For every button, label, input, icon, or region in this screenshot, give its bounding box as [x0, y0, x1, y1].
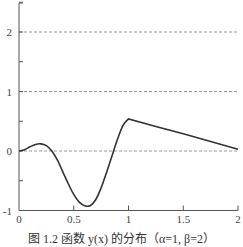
y-tick-label: 1 — [7, 86, 13, 98]
y-tick-label: -1 — [3, 205, 12, 217]
x-tick-label: 0 — [16, 213, 22, 225]
data-series-line — [19, 119, 238, 206]
axes — [19, 2, 238, 210]
x-tick-label: 1.5 — [176, 213, 190, 225]
x-tick-label: 2 — [235, 213, 241, 225]
x-tick-label: 0.5 — [67, 213, 81, 225]
figure-caption: 图 1.2 函数 y(x) 的分布（α=1, β=2） — [0, 229, 243, 247]
grid-lines — [19, 32, 238, 151]
y-tick-label: 0 — [7, 145, 13, 157]
y-tick-label: 2 — [7, 26, 13, 38]
tick-labels: 00.511.52-1012 — [3, 26, 241, 225]
x-tick-label: 1 — [126, 213, 132, 225]
